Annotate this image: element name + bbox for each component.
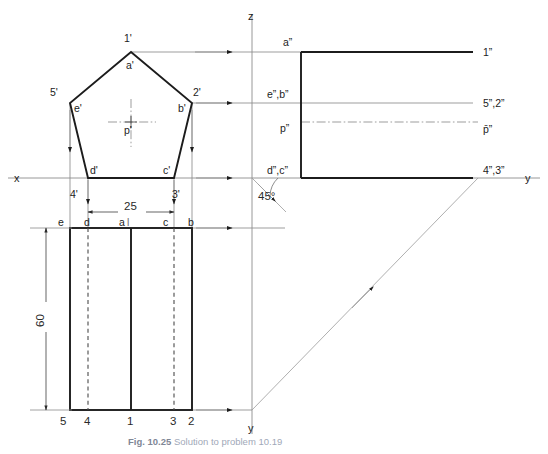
- engineering-drawing-canvas: x z y y: [0, 0, 548, 454]
- caption-figure-text: Solution to problem 10.19: [174, 436, 282, 447]
- sideview-label-43-dd: 4”,3”: [483, 164, 505, 176]
- topview-number-4: 4: [84, 415, 91, 427]
- pentagon-front-view: p' a' b' c' d' e' 1' 2' 3' 4' 5': [50, 32, 201, 200]
- topview-label-a: a: [119, 216, 125, 228]
- topview-label-d: d: [84, 216, 90, 228]
- sideview-label-p-dd-right: p̄”: [483, 123, 493, 135]
- dimension-width-25: 25: [88, 199, 174, 213]
- dim-60-value: 60: [34, 314, 46, 327]
- profile-side-view: a” e”,b” p” d”,c” 1” 5”,2” p̄” 4”,3”: [267, 36, 505, 178]
- x-axis-label: x: [14, 172, 20, 184]
- z-axis-label: z: [248, 10, 254, 22]
- topview-label-c: c: [163, 216, 168, 228]
- y-axis-label-bottom: y: [248, 422, 254, 434]
- sideview-label-52-dd: 5”,2”: [483, 97, 505, 109]
- topview-number-3: 3: [170, 415, 176, 427]
- sideview-label-eb-dd: e”,b”: [267, 88, 289, 100]
- topview-number-5: 5: [60, 415, 66, 427]
- sideview-label-p-dd: p”: [280, 122, 290, 134]
- topview-label-b: b: [188, 216, 194, 228]
- label-d-prime: d': [90, 164, 98, 176]
- label-1-prime: 1': [124, 32, 132, 44]
- dimension-height-60: 60: [30, 228, 72, 410]
- mitre-main-45-line: [252, 178, 478, 410]
- mitre-angle-label: 45°: [258, 190, 275, 202]
- figure-caption: Fig. 10.25 Solution to problem 10.19: [0, 436, 548, 454]
- topview-label-a-tick: l: [127, 216, 129, 228]
- sideview-label-a-dd: a”: [283, 36, 293, 48]
- label-4-prime: 4': [70, 188, 78, 200]
- label-e-prime: e': [74, 102, 82, 114]
- label-c-prime: c': [163, 164, 170, 176]
- label-2-prime: 2': [193, 86, 201, 98]
- mitre-construction: 45°: [252, 178, 478, 410]
- label-a-prime: a': [126, 59, 134, 71]
- label-b-prime: b': [178, 102, 186, 114]
- caption-figure-number: Fig. 10.25: [128, 436, 171, 447]
- label-5-prime: 5': [50, 86, 58, 98]
- topview-number-1: 1: [127, 415, 133, 427]
- label-3-prime: 3': [172, 188, 180, 200]
- label-p-prime: p': [124, 124, 132, 136]
- rectangle-top-view: e d a l c b 5 4 1 3 2: [58, 216, 194, 427]
- y-axis-label-right: y: [525, 172, 531, 184]
- orthographic-projection-figure: x z y y: [0, 0, 548, 454]
- topview-number-2: 2: [188, 415, 194, 427]
- dim-25-value: 25: [124, 200, 137, 212]
- topview-label-e: e: [58, 216, 64, 228]
- sideview-label-1-dd: 1”: [483, 46, 493, 58]
- mitre-main-45-arrow: [352, 288, 372, 308]
- sideview-label-dc-dd: d”,c”: [267, 164, 289, 176]
